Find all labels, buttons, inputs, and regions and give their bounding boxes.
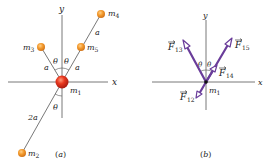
x-axis-label-b: x [258,78,263,87]
svg-text:14: 14 [226,72,234,79]
y-axis-label-a: y [58,4,65,14]
figure: x y θ θ θ a a a 2a m4 m5 m3 m1 m2 (a) [0,0,266,164]
label-m3: m3 [23,43,35,53]
mass-m3 [37,43,45,51]
angle-arc-m5 [62,68,69,70]
svg-text:13: 13 [175,46,183,53]
theta-bottom-a: θ [53,103,58,112]
label-f12: F 12 [179,91,195,104]
dist-m1-m3: a [44,63,49,72]
mass-m5 [77,43,85,51]
label-m2: m2 [28,149,40,159]
label-f14: F 14 [218,67,234,80]
svg-text:F: F [234,40,242,50]
y-axis-label-b: y [202,11,208,20]
svg-text:F: F [179,92,187,102]
svg-text:F: F [167,42,175,52]
panel-a: x y θ θ θ a a a 2a m4 m5 m3 m1 m2 (a) [8,4,120,159]
dist-m5-m4: a [95,28,100,37]
panel-b: x y θ θ F 13 F 15 [152,11,263,159]
arrowhead-f13 [183,40,190,49]
label-f15: F 15 [234,39,250,52]
svg-text:12: 12 [187,96,195,103]
mass-m2 [18,149,26,157]
mass-m1 [56,76,69,89]
theta-left-a: θ [53,57,58,66]
dist-m1-m5: a [75,63,80,72]
label-f13: F 13 [167,41,183,54]
label-m4: m4 [108,9,120,19]
caption-b: (b) [200,150,211,159]
arrowhead-f15 [225,38,232,47]
origin-m1-b [204,80,208,84]
label-m1-b: m1 [209,86,220,96]
x-axis-label-a: x [112,77,117,87]
theta-right-a: θ [64,57,69,66]
label-m5: m5 [87,43,99,53]
svg-text:15: 15 [242,44,250,51]
dist-m1-m2: 2a [27,113,38,122]
caption-a: (a) [55,150,66,159]
svg-text:F: F [218,68,226,78]
angle-arc-m3 [55,68,62,70]
mass-m4 [97,10,105,18]
label-m1: m1 [70,86,81,96]
vector-f13 [186,45,206,82]
angle-arc-m2 [55,94,62,96]
